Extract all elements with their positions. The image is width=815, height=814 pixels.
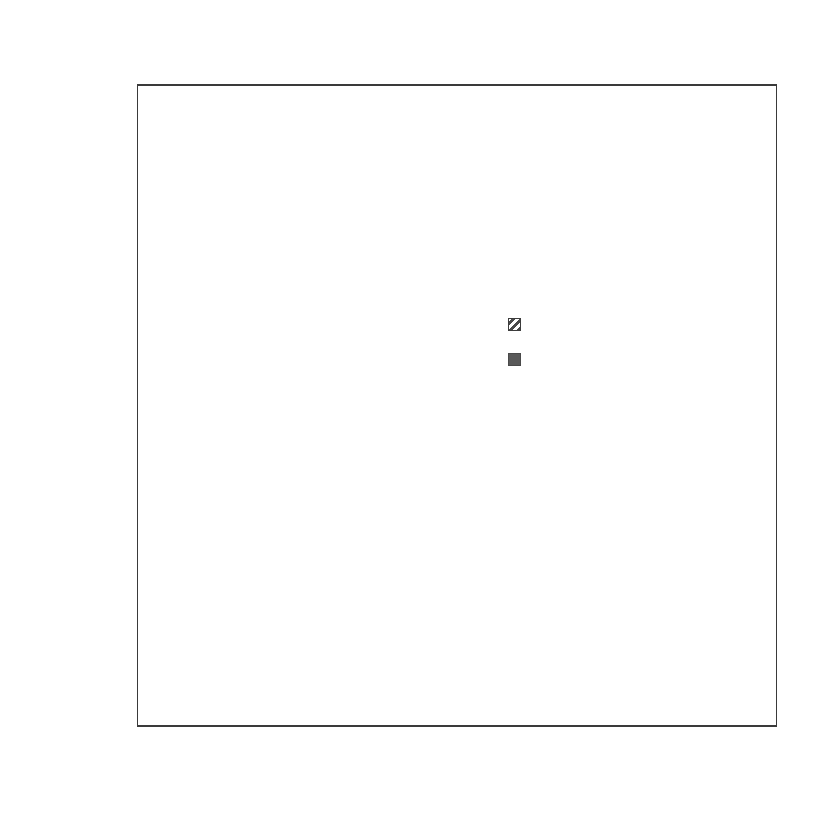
legend-swatch-rice-icon bbox=[508, 353, 521, 366]
plot-area bbox=[137, 85, 777, 725]
bottom-axis-line bbox=[137, 725, 777, 727]
rice-production-chart bbox=[0, 0, 815, 814]
legend-item-cases bbox=[508, 318, 528, 331]
legend-swatch-cases-icon bbox=[508, 318, 521, 331]
legend-item-rice-area bbox=[508, 353, 528, 366]
legend bbox=[508, 318, 528, 388]
